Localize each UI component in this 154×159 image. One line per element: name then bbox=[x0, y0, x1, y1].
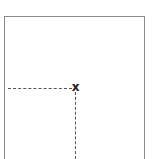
diagram-canvas: x bbox=[0, 0, 154, 159]
point-marker-x-icon: x bbox=[70, 81, 81, 94]
vertical-guide-line bbox=[75, 92, 76, 159]
horizontal-guide-line bbox=[8, 88, 72, 89]
